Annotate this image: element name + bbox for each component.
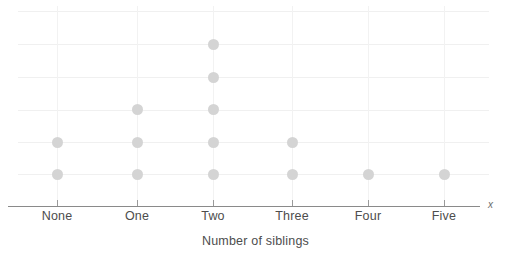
x-tick-three (292, 200, 293, 206)
dot-three-2 (287, 137, 298, 148)
dot-two-5 (208, 39, 219, 50)
x-tick-none (57, 200, 58, 206)
dot-two-1 (208, 169, 219, 180)
gridline-horizontal-2 (18, 77, 489, 78)
x-tick-label-four: Four (355, 209, 382, 223)
x-tick-label-none: None (42, 209, 73, 223)
dot-one-1 (132, 169, 143, 180)
gridline-horizontal-1 (18, 44, 489, 45)
dot-five-1 (439, 169, 450, 180)
dot-none-1 (52, 169, 63, 180)
gridline-horizontal-3 (18, 110, 489, 111)
x-tick-label-five: Five (432, 209, 456, 223)
x-tick-two (213, 200, 214, 206)
x-tick-four (368, 200, 369, 206)
dot-one-2 (132, 137, 143, 148)
gridline-horizontal-4 (18, 142, 489, 143)
dot-two-2 (208, 137, 219, 148)
x-tick-five (444, 200, 445, 206)
dot-four-1 (363, 169, 374, 180)
x-axis-line (8, 206, 480, 207)
dot-two-3 (208, 104, 219, 115)
gridline-horizontal-0 (18, 11, 489, 12)
x-tick-one (137, 200, 138, 206)
x-tick-label-two: Two (201, 209, 225, 223)
x-axis-variable-label: x (488, 199, 493, 210)
dot-one-3 (132, 104, 143, 115)
dot-three-1 (287, 169, 298, 180)
x-axis-title: Number of siblings (0, 234, 511, 248)
dot-none-2 (52, 137, 63, 148)
dot-plot-chart: NoneOneTwoThreeFourFive x Number of sibl… (0, 0, 511, 256)
gridline-horizontal-5 (18, 174, 489, 175)
x-tick-label-three: Three (275, 209, 309, 223)
x-tick-label-one: One (125, 209, 149, 223)
dot-two-4 (208, 72, 219, 83)
